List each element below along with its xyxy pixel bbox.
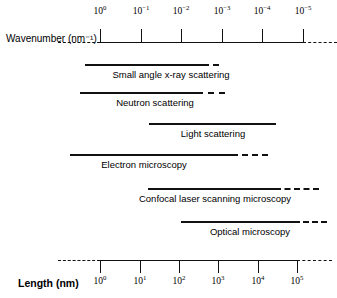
- wavenumber-tick-label: 10−2: [173, 6, 190, 16]
- length-axis-dash-right: [297, 260, 332, 261]
- band-electron-microscopy-solid: [80, 154, 232, 156]
- band-neutron-scattering-dash-left: [80, 92, 90, 94]
- wavenumber-axis-line: [100, 42, 303, 43]
- length-tick-label: 103: [212, 276, 225, 286]
- band-light-scattering-solid: [158, 123, 266, 125]
- band-neutron-scattering-caption: Neutron scattering: [116, 97, 194, 108]
- band-optical-microscopy-dash-left: [181, 221, 190, 223]
- length-axis-dash-left: [58, 260, 100, 261]
- wavenumber-tick: [141, 29, 142, 42]
- band-electron-microscopy-dash-right: [232, 154, 268, 156]
- length-tick: [179, 260, 180, 273]
- band-optical-microscopy-solid: [190, 221, 294, 223]
- wavenumber-tick: [100, 29, 101, 42]
- band-small-angle-x-ray-scattering-caption: Small angle x-ray scattering: [112, 69, 229, 80]
- band-confocal-laser-scanning-microscopy-caption: Confocal laser scanning microscopy: [139, 193, 291, 204]
- length-tick-label: 100: [94, 276, 107, 286]
- band-neutron-scattering-dash-right: [197, 92, 225, 94]
- wavenumber-tick-label: 10−1: [133, 6, 150, 16]
- band-light-scattering-caption: Light scattering: [181, 128, 245, 139]
- length-tick: [297, 260, 298, 273]
- length-tick: [100, 260, 101, 273]
- wavenumber-tick: [303, 29, 304, 42]
- length-tick: [218, 260, 219, 273]
- band-electron-microscopy-caption: Electron microscopy: [101, 159, 187, 170]
- band-light-scattering-dash-left: [149, 123, 158, 125]
- wavenumber-tick-label: 10−5: [295, 6, 312, 16]
- length-tick-label: 102: [173, 276, 186, 286]
- wavenumber-axis-dash-left: [58, 42, 100, 43]
- band-small-angle-x-ray-scattering-dash-left: [85, 64, 95, 66]
- length-tick: [140, 260, 141, 273]
- wavenumber-axis-dash-right: [303, 42, 337, 43]
- band-neutron-scattering-solid: [90, 92, 197, 94]
- wavenumber-tick-label: 100: [94, 6, 107, 16]
- length-tick: [258, 260, 259, 273]
- band-optical-microscopy-caption: Optical microscopy: [210, 226, 290, 237]
- wavenumber-tick-label: 10−3: [214, 6, 231, 16]
- wavenumber-tick: [262, 29, 263, 42]
- band-light-scattering-dash-right: [266, 123, 276, 125]
- band-electron-microscopy-dash-left: [70, 154, 80, 156]
- band-confocal-laser-scanning-microscopy-solid: [158, 188, 275, 190]
- length-axis-line: [100, 260, 297, 261]
- band-confocal-laser-scanning-microscopy-dash-left: [148, 188, 158, 190]
- band-small-angle-x-ray-scattering-dash-right: [203, 64, 219, 66]
- wavenumber-tick: [222, 29, 223, 42]
- length-tick-label: 104: [252, 276, 265, 286]
- wavenumber-tick-label: 10−4: [254, 6, 271, 16]
- wavenumber-tick: [181, 29, 182, 42]
- length-scale-range-diagram: Wavenumber (nm⁻¹) 10010−110−210−310−410−…: [0, 0, 337, 298]
- length-axis-title: Length (nm): [18, 277, 79, 289]
- band-confocal-laser-scanning-microscopy-dash-right: [275, 188, 319, 190]
- band-optical-microscopy-dash-right: [294, 221, 327, 223]
- band-small-angle-x-ray-scattering-solid: [95, 64, 203, 66]
- length-tick-label: 101: [134, 276, 147, 286]
- length-tick-label: 105: [291, 276, 304, 286]
